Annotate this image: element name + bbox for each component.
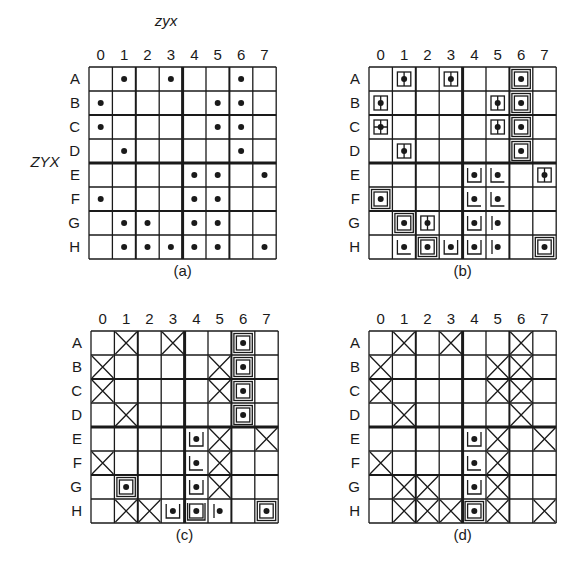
dot-mark	[215, 196, 221, 202]
cell-mark-dot	[191, 196, 197, 202]
dot-mark	[471, 484, 477, 490]
cell-mark-u-bracket	[190, 480, 203, 494]
row-label: H	[69, 238, 80, 255]
row-label: G	[348, 214, 360, 231]
cell-mark-box	[395, 214, 413, 233]
cell-mark-x	[487, 476, 508, 498]
cell-mark-dot	[262, 244, 268, 250]
cell-mark-l-bracket	[491, 192, 504, 206]
mark-stroke	[115, 404, 136, 426]
dot-mark	[471, 172, 477, 178]
column-label: 1	[400, 46, 408, 63]
cell-mark-x	[487, 500, 508, 522]
column-label: 1	[400, 310, 408, 327]
column-label: 4	[470, 46, 478, 63]
dot-mark	[401, 76, 407, 82]
mark-stroke	[115, 332, 136, 354]
row-label: A	[70, 70, 80, 87]
dot-mark	[170, 508, 176, 514]
mark-stroke	[393, 332, 414, 354]
cell-mark-x	[209, 476, 230, 498]
cell-mark-x	[209, 428, 230, 450]
dot-mark	[448, 244, 454, 250]
dot-mark	[471, 436, 477, 442]
dot-mark	[518, 76, 524, 82]
row-label: F	[351, 190, 360, 207]
cell-mark-box-vline	[397, 72, 410, 86]
cell-mark-box	[234, 406, 252, 425]
dot-mark	[168, 244, 174, 250]
cell-mark-box-vline	[374, 96, 387, 110]
mark-stroke	[487, 356, 508, 378]
mark-stroke	[370, 452, 391, 474]
column-label: 6	[517, 310, 525, 327]
mark-stroke	[370, 380, 391, 402]
column-label: 5	[214, 46, 222, 63]
cell-mark-box	[372, 190, 390, 209]
dot-mark	[215, 124, 221, 130]
cell-mark-box	[535, 238, 553, 257]
row-label: C	[349, 118, 360, 135]
mark-stroke	[440, 332, 461, 354]
mark-stroke	[510, 404, 531, 426]
cell-mark-x	[139, 500, 160, 522]
column-label: 2	[423, 46, 431, 63]
cell-mark-box-vline	[538, 168, 551, 182]
dot-mark	[240, 364, 246, 370]
mark-stroke	[487, 452, 508, 474]
dot-mark	[217, 508, 223, 514]
cell-mark-box	[512, 70, 530, 89]
cell-mark-x	[534, 500, 555, 522]
cell-mark-box-vline	[421, 216, 434, 230]
cell-mark-dot	[215, 220, 221, 226]
cell-mark-x	[162, 332, 183, 354]
cell-mark-box	[512, 142, 530, 161]
cell-mark-x	[534, 428, 555, 450]
cell-mark-dot	[168, 76, 174, 82]
cell-mark-x	[209, 380, 230, 402]
mark-stroke	[92, 452, 113, 474]
dot-mark	[191, 172, 197, 178]
column-label: 2	[423, 310, 431, 327]
column-label: 4	[470, 310, 478, 327]
cell-mark-x	[487, 452, 508, 474]
dot-mark	[121, 220, 127, 226]
dot-mark	[401, 244, 407, 250]
column-label: 5	[494, 310, 502, 327]
dot-mark	[238, 148, 244, 154]
dot-mark	[191, 196, 197, 202]
row-label: A	[72, 334, 82, 351]
panel-caption: (b)	[453, 262, 471, 279]
cell-mark-x	[209, 356, 230, 378]
cell-mark-x	[487, 380, 508, 402]
mark-stroke	[487, 380, 508, 402]
cell-mark-x	[440, 500, 461, 522]
column-label: 6	[239, 310, 247, 327]
cell-mark-u-bracket	[444, 240, 457, 254]
mark-stroke	[370, 356, 391, 378]
dot-mark	[191, 244, 197, 250]
column-label: 3	[169, 310, 177, 327]
cell-mark-u-bracket	[468, 168, 481, 182]
cell-mark-box	[512, 118, 530, 137]
dot-mark	[401, 148, 407, 154]
dot-mark	[262, 244, 268, 250]
row-axis-title: ZYX	[29, 153, 60, 170]
cell-mark-u-bracket	[468, 240, 481, 254]
dot-mark	[238, 124, 244, 130]
row-label: B	[70, 94, 80, 111]
mark-stroke	[209, 380, 230, 402]
column-label: 7	[260, 46, 268, 63]
mark-stroke	[510, 356, 531, 378]
dot-mark	[238, 76, 244, 82]
cell-mark-box	[234, 358, 252, 377]
panel-a: 01234567ABCDEFGH(a)	[68, 46, 276, 279]
cell-mark-x	[510, 380, 531, 402]
dot-mark	[425, 244, 431, 250]
row-label: F	[71, 190, 80, 207]
dot-mark	[193, 460, 199, 466]
dot-mark	[471, 460, 477, 466]
mark-stroke	[209, 356, 230, 378]
cell-mark-dot	[98, 196, 104, 202]
mark-stroke	[510, 332, 531, 354]
